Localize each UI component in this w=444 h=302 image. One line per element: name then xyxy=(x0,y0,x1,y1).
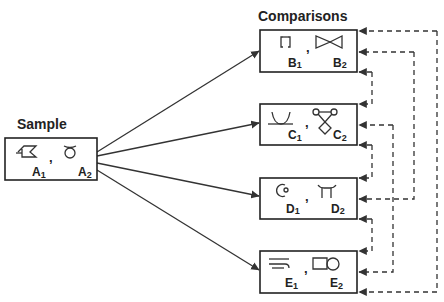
sample-box-a: , A1 A2 xyxy=(5,138,97,180)
dashed-b-d xyxy=(359,52,414,199)
comparison-box-b: , B1 B2 xyxy=(260,30,357,72)
dashed-c-d xyxy=(359,145,372,178)
separator: , xyxy=(49,150,53,165)
separator: , xyxy=(305,115,309,130)
arrow-a-to-e xyxy=(97,170,259,270)
sample-heading: Sample xyxy=(17,116,67,132)
solid-arrows xyxy=(97,51,259,270)
comparison-box-c: , C1 C2 xyxy=(260,104,357,145)
separator: , xyxy=(305,189,309,204)
arrow-a-to-c xyxy=(97,123,259,156)
comparison-box-e: , E1 E2 xyxy=(260,251,357,293)
dashed-b-c xyxy=(359,72,372,104)
arrow-a-to-d xyxy=(97,163,259,196)
dashed-b-e xyxy=(359,31,437,292)
separator: , xyxy=(306,40,310,55)
comparisons-heading: Comparisons xyxy=(258,8,348,24)
diagram-canvas: Sample Comparisons , xyxy=(0,0,444,302)
dashed-d-e xyxy=(359,219,372,251)
dashed-connectors xyxy=(359,31,437,292)
arrow-a-to-b xyxy=(97,51,259,152)
separator: , xyxy=(304,261,308,276)
comparison-box-d: , D1 D2 xyxy=(260,178,357,219)
